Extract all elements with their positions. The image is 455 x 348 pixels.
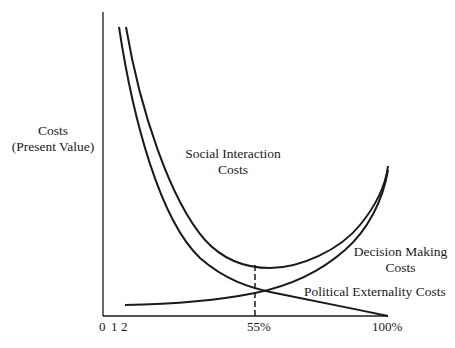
x-tick-2: 2: [121, 320, 128, 334]
y-axis-label-line1: Costs: [8, 123, 98, 139]
decision-label-line1: Decision Making: [348, 244, 453, 260]
y-axis-label: Costs (Present Value): [8, 123, 98, 155]
x-tick-1: 1: [111, 320, 118, 334]
x-tick-55-percent: 55%: [247, 320, 271, 334]
y-axis-label-line2: (Present Value): [8, 139, 98, 155]
political-externality-costs-label: Political Externality Costs: [304, 284, 446, 300]
decision-making-costs-label: Decision Making Costs: [348, 244, 453, 276]
decision-label-line2: Costs: [348, 260, 453, 276]
x-tick-0: 0: [99, 320, 106, 334]
social-label-line2: Costs: [168, 162, 298, 178]
x-tick-100-percent: 100%: [372, 320, 402, 334]
social-interaction-costs-label: Social Interaction Costs: [168, 146, 298, 178]
social-label-line1: Social Interaction: [168, 146, 298, 162]
